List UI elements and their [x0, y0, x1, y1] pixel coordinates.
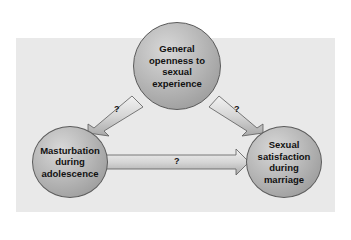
node-line: experience	[149, 78, 205, 90]
arrow-openness-to-masturbation	[88, 96, 143, 136]
node-line: General	[149, 43, 205, 55]
node-line: adolescence	[40, 168, 100, 180]
node-sexual-satisfaction: Sexual satisfaction during marriage	[246, 126, 322, 198]
node-line: during	[40, 156, 100, 168]
node-line: marriage	[258, 174, 311, 186]
node-line: during	[258, 162, 311, 174]
node-line: Sexual	[258, 139, 311, 151]
edge-label-top-left: ?	[114, 104, 120, 114]
edge-label-left-right: ?	[174, 156, 180, 166]
edge-label-top-right: ?	[234, 104, 240, 114]
node-line: satisfaction	[258, 151, 311, 163]
arrow-openness-to-satisfaction	[209, 96, 263, 136]
node-general-openness: General openness to sexual experience	[133, 22, 221, 110]
node-line: sexual	[149, 66, 205, 78]
node-masturbation: Masturbation during adolescence	[32, 126, 108, 198]
node-line: openness to	[149, 55, 205, 67]
node-line: Masturbation	[40, 145, 100, 157]
